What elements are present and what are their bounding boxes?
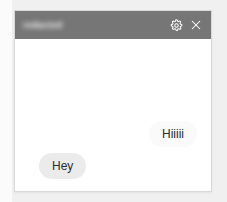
message-row: Hiiiii: [23, 121, 203, 147]
close-button[interactable]: [187, 16, 205, 34]
gear-icon: [170, 19, 183, 32]
window-title-bar[interactable]: redacted: [15, 11, 211, 39]
message-bubble-outgoing: Hiiiii: [149, 121, 197, 147]
window-title: redacted: [23, 20, 165, 30]
message-list[interactable]: Hiiiii Hey: [15, 39, 211, 191]
message-bubble-incoming: Hey: [39, 153, 86, 179]
page-root: redacted Hi: [0, 0, 227, 202]
close-icon: [190, 19, 202, 31]
message-row: Hey: [23, 153, 203, 179]
chat-window: redacted Hi: [14, 10, 212, 192]
settings-button[interactable]: [167, 16, 185, 34]
